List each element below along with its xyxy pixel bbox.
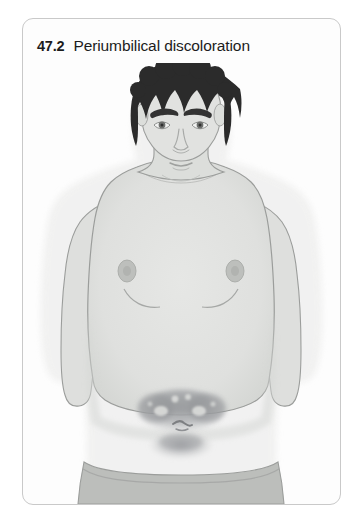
right-nipple	[226, 260, 244, 282]
figure-title: Periumbilical discoloration	[73, 37, 250, 55]
illustration-canvas	[23, 63, 340, 504]
figure-card: 47.2 Periumbilical discoloration	[22, 18, 341, 505]
left-nipple	[118, 260, 136, 282]
figure-number: 47.2	[37, 38, 64, 54]
figure-caption: 47.2 Periumbilical discoloration	[37, 33, 329, 59]
page-background: 47.2 Periumbilical discoloration	[0, 0, 364, 529]
clinical-illustration	[23, 63, 340, 504]
